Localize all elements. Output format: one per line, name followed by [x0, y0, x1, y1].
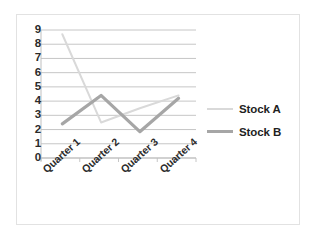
- legend-item-stock-a[interactable]: Stock A: [207, 97, 301, 120]
- y-tick-label: 0: [23, 152, 41, 164]
- y-tick-label: 1: [23, 138, 41, 150]
- y-tick-label: 3: [23, 109, 41, 121]
- legend-swatch-stock-b: [207, 130, 233, 133]
- data-series-group: [62, 34, 178, 131]
- y-axis-labels: 9876543210: [19, 15, 41, 226]
- y-tick-label: 9: [23, 24, 41, 36]
- legend-label-stock-b: Stock B: [239, 126, 281, 138]
- y-tick-label: 2: [23, 124, 41, 136]
- legend-label-stock-a: Stock A: [239, 103, 281, 115]
- legend-swatch-stock-a: [207, 108, 233, 110]
- y-tick-label: 6: [23, 67, 41, 79]
- y-tick-label: 7: [23, 52, 41, 64]
- y-tick-label: 5: [23, 81, 41, 93]
- x-axis-ticks: [41, 158, 196, 162]
- y-tick-label: 8: [23, 38, 41, 50]
- chart-container: 9876543210 Quarter 1Quarter 2Quarter 3Qu…: [16, 14, 300, 225]
- y-tick-label: 4: [23, 95, 41, 107]
- axis-lines: [41, 30, 196, 161]
- legend-item-stock-b[interactable]: Stock B: [207, 120, 301, 143]
- gridlines: [41, 30, 196, 158]
- chart-legend: Stock A Stock B: [207, 97, 301, 143]
